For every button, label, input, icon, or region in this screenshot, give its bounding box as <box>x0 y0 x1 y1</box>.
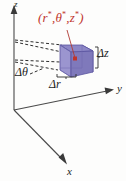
delta-theta-leader <box>30 68 44 74</box>
delta-theta-label: Δθ <box>15 66 28 78</box>
x-axis-label: x <box>67 166 72 177</box>
x-axis <box>14 110 67 165</box>
dashed-projection-upper <box>15 40 62 52</box>
delta-r-label: Δr <box>49 78 61 90</box>
point-coordinates-label: (r*,θ*,z*) <box>38 11 84 24</box>
z-axis <box>11 5 18 110</box>
cylindrical-coordinates-diagram: (r*,θ*,z*) Δz Δθ Δr z y x <box>0 0 126 181</box>
z-axis-label: z <box>14 0 18 9</box>
y-axis <box>14 88 114 110</box>
delta-z-label: Δz <box>97 47 109 59</box>
diagram-canvas <box>0 0 126 181</box>
y-axis-label: y <box>117 83 122 94</box>
